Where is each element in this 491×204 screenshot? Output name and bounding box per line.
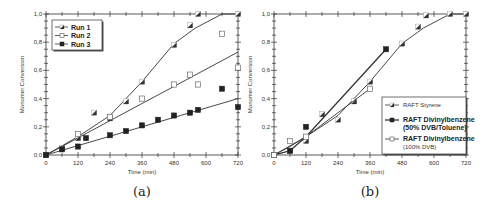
x-tick-label: 600 (201, 160, 212, 166)
panel-caption: (a) (133, 184, 151, 199)
data-point (139, 123, 144, 128)
y-axis-label: Monomer Conversion (247, 56, 253, 113)
chart-panel-b: 01202403604806007200,00,20,40,60,81,0Tim… (247, 11, 475, 199)
y-axis-label: Monomer Conversion (19, 56, 25, 113)
data-point (75, 144, 80, 149)
panel-caption: (b) (361, 184, 379, 199)
legend: Run 1Run 2Run 3 (52, 20, 102, 50)
x-tick-label: 240 (333, 160, 344, 166)
data-point (383, 47, 388, 52)
chart-panel-a: 01202403604806007200,00,20,40,60,81,0Tim… (19, 11, 244, 199)
x-tick-label: 720 (233, 160, 244, 166)
data-point (447, 11, 452, 16)
y-tick-label: 0,0 (262, 152, 271, 158)
legend-label: Run 1 (71, 24, 91, 31)
y-tick-label: 0,2 (262, 124, 271, 130)
data-point (367, 86, 372, 91)
x-tick-label: 240 (105, 160, 116, 166)
x-tick-label: 360 (365, 160, 376, 166)
x-tick-label: 120 (301, 160, 312, 166)
fit-line (46, 52, 238, 155)
data-point (171, 113, 176, 118)
data-point (303, 134, 308, 139)
legend-label-sub: (100% DVB) (403, 144, 436, 150)
legend-label: Run 2 (71, 32, 91, 39)
x-tick-label: 120 (73, 160, 84, 166)
x-axis-label: Time (min) (128, 169, 156, 175)
data-point (187, 110, 192, 115)
data-point (83, 135, 88, 140)
data-point (123, 128, 128, 133)
y-tick-label: 0,6 (262, 67, 271, 73)
legend-label: RAFT Styrene (403, 102, 442, 108)
data-point (423, 13, 428, 18)
data-point (335, 117, 340, 122)
data-point (235, 65, 240, 70)
y-tick-label: 0,4 (34, 96, 43, 102)
data-point (195, 82, 200, 87)
x-axis-label: Time (min) (356, 169, 384, 175)
legend-label-sub: (50% DVB/Toluene) (403, 124, 467, 132)
data-point (171, 82, 176, 87)
data-point (155, 117, 160, 122)
data-point (367, 79, 372, 84)
x-tick-label: 0 (44, 160, 48, 166)
figure: 01202403604806007200,00,20,40,60,81,0Tim… (0, 0, 491, 204)
y-tick-label: 0,8 (262, 39, 271, 45)
data-point (219, 86, 224, 91)
data-point (139, 79, 144, 84)
data-point (171, 42, 176, 47)
data-point (235, 104, 240, 109)
data-point (123, 99, 128, 104)
y-tick-label: 0,0 (34, 152, 43, 158)
x-tick-label: 480 (169, 160, 180, 166)
data-point (195, 11, 200, 16)
data-point (287, 148, 292, 153)
y-tick-label: 0,8 (34, 39, 43, 45)
x-tick-label: 600 (429, 160, 440, 166)
legend-label: RAFT Divinylbenzene (403, 135, 475, 143)
data-point (287, 138, 292, 143)
data-point (219, 31, 224, 36)
data-point (59, 147, 64, 152)
y-tick-label: 0,2 (34, 124, 43, 130)
x-tick-label: 480 (397, 160, 408, 166)
x-tick-label: 720 (461, 160, 472, 166)
y-tick-label: 1,0 (34, 11, 43, 17)
y-tick-label: 1,0 (262, 11, 271, 17)
x-tick-label: 0 (272, 160, 276, 166)
legend-label: Run 3 (71, 41, 91, 48)
y-tick-label: 0,6 (34, 67, 43, 73)
data-point (43, 152, 48, 157)
data-point (139, 96, 144, 101)
data-point (271, 152, 276, 157)
data-point (415, 24, 420, 29)
series-3 (271, 86, 372, 157)
data-point (195, 107, 200, 112)
legend: RAFT StyreneRAFT Divinylbenzene(50% DVB/… (382, 97, 475, 154)
data-point (463, 11, 468, 16)
data-point (91, 110, 96, 115)
y-tick-label: 0,4 (262, 96, 271, 102)
data-point (75, 131, 80, 136)
data-point (303, 124, 308, 129)
data-point (107, 114, 112, 119)
data-point (319, 112, 324, 117)
data-point (187, 23, 192, 28)
x-tick-label: 360 (137, 160, 148, 166)
data-point (235, 11, 240, 16)
data-point (107, 133, 112, 138)
data-point (399, 41, 404, 46)
data-point (187, 72, 192, 77)
